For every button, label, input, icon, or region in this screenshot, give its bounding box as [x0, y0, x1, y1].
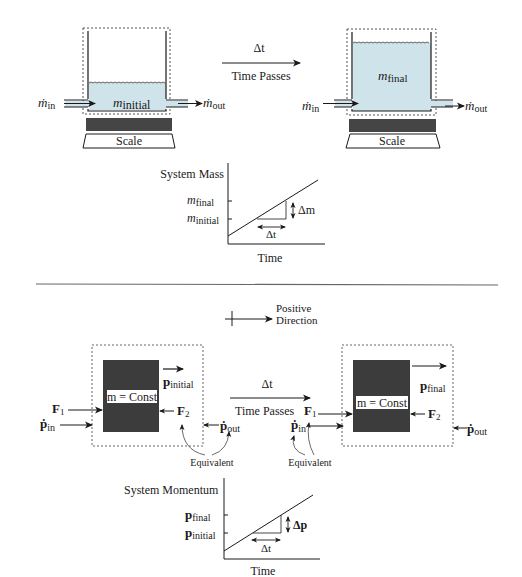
pin-label: ṗin: [40, 416, 55, 433]
momentum-initial-label: pinitial: [163, 374, 194, 390]
delta-p-label: Δp: [293, 518, 308, 532]
pout-label: ṗout: [467, 421, 487, 437]
mass-initial-label: minitial: [113, 95, 151, 112]
delta-t-label: Δt: [261, 542, 271, 554]
force2-label: F2: [428, 406, 440, 422]
x-axis-title: Time: [258, 251, 283, 265]
pin-label: ṗin: [291, 417, 306, 434]
scale-plate: [349, 119, 436, 132]
positive-direction-key: Positive Direction: [225, 302, 318, 326]
delta-triangle: [257, 201, 286, 219]
delta-t-label: Δt: [261, 377, 273, 391]
direction-label-line2: Direction: [276, 314, 318, 326]
delta-t-label: Δt: [266, 228, 276, 240]
force2-label: F2: [177, 403, 189, 419]
diagram-canvas: Scale minitial ṁin ṁout Δt Time Passes S…: [0, 0, 522, 577]
tank-before: Scale minitial ṁin ṁout: [38, 28, 225, 148]
tick-final-label: mfinal: [187, 193, 214, 208]
tick-final-label: pfinal: [185, 507, 211, 523]
equivalent-curve-right: [308, 423, 314, 455]
time-passes-transition-momentum: Δt Time Passes: [230, 377, 310, 418]
force1-label: F1: [304, 403, 316, 419]
equivalent-curve-left: [182, 425, 205, 455]
equivalent-curve-left: [293, 436, 305, 455]
y-axis-title: System Mass: [160, 167, 224, 181]
time-passes-label: Time Passes: [231, 69, 291, 83]
system-mass-graph: System Mass mfinal minitial Δm Δt Time: [160, 163, 325, 265]
equivalent-label: Equivalent: [190, 457, 234, 468]
water-surface: [353, 42, 429, 43]
tick-initial-label: pinitial: [185, 525, 216, 541]
delta-t-label: Δt: [253, 41, 265, 55]
scale-label: Scale: [379, 134, 405, 148]
equivalent-label: Equivalent: [288, 457, 332, 468]
delta-m-label: Δm: [298, 203, 316, 217]
tank-after: Scale mfinal ṁin ṁout: [302, 29, 487, 148]
force1-label: F1: [52, 401, 64, 417]
equivalent-curve-right: [212, 432, 229, 455]
time-passes-label: Time Passes: [235, 404, 295, 418]
direction-label-line1: Positive: [276, 302, 312, 314]
pout-label: ṗout: [220, 418, 240, 434]
block-label: m = Const: [107, 390, 158, 404]
tick-initial-label: minitial: [187, 211, 219, 226]
inflow-label: ṁin: [38, 95, 55, 111]
x-axis-title: Time: [251, 564, 276, 577]
momentum-final-label: pfinal: [420, 378, 446, 394]
time-passes-transition-mass: Δt Time Passes: [222, 41, 300, 83]
outflow-label: ṁout: [203, 95, 225, 111]
momentum-after: m = Const pfinal F1 ṗin F2 ṗout Equivale…: [288, 345, 487, 468]
water-surface: [89, 82, 165, 83]
scale-plate: [86, 118, 172, 131]
system-momentum-graph: System Momentum pfinal pinitial Δp Δt Ti…: [124, 478, 320, 577]
section-divider: [36, 284, 498, 285]
y-axis-title: System Momentum: [124, 483, 219, 497]
momentum-before: m = Const pinitial F1 ṗin F2 ṗout Equiva…: [40, 345, 240, 468]
outflow-label: ṁout: [465, 98, 487, 114]
inflow-label: ṁin: [302, 98, 319, 114]
block-label: m = Const: [357, 396, 408, 410]
scale-label: Scale: [116, 134, 142, 148]
